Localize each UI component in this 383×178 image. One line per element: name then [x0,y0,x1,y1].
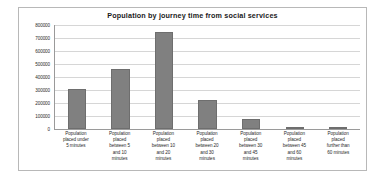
x-axis-label-line: minutes [142,156,184,162]
bar-slot [55,25,99,129]
x-axis-category-label: Populationplacedbetween 30and 45minutes [229,131,273,162]
x-axis-label-line: minutes [99,156,141,162]
y-axis-tick-label: 400000 [35,75,50,80]
x-axis-category-label: Populationplacedfurther than60 minutes [316,131,360,162]
y-axis-tick-label: 600000 [35,49,50,54]
bar-slot [99,25,143,129]
bar-slot [316,25,360,129]
bar-slot [273,25,317,129]
y-axis-tick-label: 200000 [35,101,50,106]
bar-slot [186,25,230,129]
x-axis-category-label: Populationplacedbetween 20and 30minutes [185,131,229,162]
y-axis: 8000007000006000005000004000003000002000… [19,25,52,129]
y-axis-tick-label: 0 [48,127,50,132]
bar[interactable] [155,32,173,129]
x-axis-category-label: Populationplacedbetween 10and 20minutes [141,131,185,162]
bar[interactable] [286,127,304,129]
y-axis-tick-label: 500000 [35,62,50,67]
bar[interactable] [68,89,86,129]
x-axis-category-label: Populationplacedbetween 5and 10minutes [98,131,142,162]
y-axis-tick-label: 800000 [35,23,50,28]
bar[interactable] [329,127,347,129]
bar[interactable] [198,100,216,129]
plot-wrapper: 8000007000006000005000004000003000002000… [19,25,366,170]
chart-container: Population by journey time from social s… [18,7,367,171]
x-axis-label-line: 60 minutes [317,150,359,156]
x-axis-label-line: minutes [230,156,272,162]
y-axis-tick-label: 700000 [35,36,50,41]
bar[interactable] [111,69,129,129]
y-axis-tick-label: 300000 [35,88,50,93]
x-axis-label-line: minutes [186,156,228,162]
x-axis-category-label: Populationplaced under5 minutes [54,131,98,162]
bar[interactable] [242,119,260,129]
y-axis-tick-label: 100000 [35,114,50,119]
x-axis-category-label: Populationplacedbetween 45and 60minutes [273,131,317,162]
x-axis-label-line: 5 minutes [55,143,97,149]
bar-slot [229,25,273,129]
x-axis-label-line: minutes [274,156,316,162]
chart-title: Population by journey time from social s… [19,11,366,20]
bar-series [55,25,360,129]
plot-area [54,25,360,130]
bar-slot [142,25,186,129]
x-axis: Populationplaced under5 minutesPopulatio… [54,131,360,162]
